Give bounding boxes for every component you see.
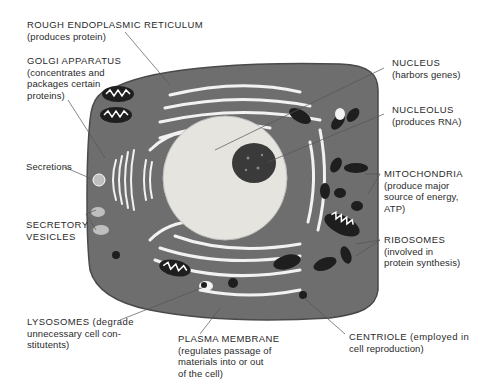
- label-nucleolus: NUCLEOLUS (produces RNA): [392, 104, 462, 127]
- label-ribosomes: RIBOSOMES (involved in protein synthesis…: [384, 234, 460, 269]
- label-secretory-vesicles: SECRETORY VESICLES: [26, 219, 88, 242]
- label-secretions: Secretions: [26, 161, 72, 173]
- label-lysosomes: LYSOSOMES (degrade unnecessary cell con-…: [27, 316, 134, 351]
- nucleolus-shape: [232, 143, 276, 183]
- label-golgi: GOLGI APPARATUS (concentrates and packag…: [27, 55, 121, 101]
- label-mitochondria: MITOCHONDRIA (produce major source of en…: [384, 168, 463, 214]
- label-rough-er: ROUGH ENDOPLASMIC RETICULUM (produces pr…: [27, 19, 203, 42]
- label-plasma-membrane: PLASMA MEMBRANE (regulates passage of ma…: [178, 333, 280, 379]
- label-nucleus: NUCLEUS (harbors genes): [392, 57, 461, 80]
- label-centriole: CENTRIOLE (employed in cell reproduction…: [349, 331, 469, 354]
